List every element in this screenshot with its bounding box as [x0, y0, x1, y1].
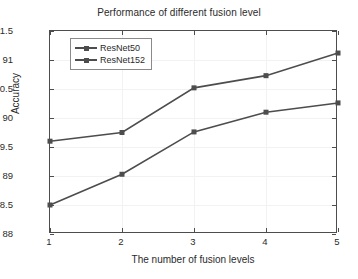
data-point-marker	[120, 172, 125, 177]
y-tick-label: 88.5	[0, 199, 13, 210]
data-point-marker	[48, 139, 53, 144]
series-line-resnet50	[50, 103, 338, 205]
y-tick-mark	[50, 234, 54, 235]
y-tick-label: 89	[0, 170, 13, 181]
data-point-marker	[192, 85, 197, 90]
legend-label: ResNet152	[97, 55, 145, 65]
x-tick-mark	[338, 31, 339, 35]
data-point-marker	[120, 130, 125, 135]
x-tick-label: 5	[317, 236, 357, 247]
x-tick-label: 1	[29, 236, 69, 247]
x-tick-label: 2	[101, 236, 141, 247]
data-point-marker	[264, 73, 269, 78]
data-point-marker	[192, 129, 197, 134]
y-tick-label: 90	[0, 112, 13, 123]
y-tick-mark	[332, 234, 336, 235]
legend-marker-icon	[75, 54, 97, 66]
chart-container: Performance of different fusion level Ac…	[0, 0, 358, 279]
y-tick-label: 91.5	[0, 25, 13, 36]
chart-legend: ResNet50ResNet152	[70, 38, 152, 70]
data-point-marker	[336, 51, 341, 56]
x-tick-label: 3	[173, 236, 213, 247]
y-tick-label: 88	[0, 228, 13, 239]
data-point-marker	[336, 100, 341, 105]
legend-item-resnet152[interactable]: ResNet152	[75, 54, 145, 66]
x-axis-label: The number of fusion levels	[49, 254, 337, 265]
y-tick-label: 91	[0, 54, 13, 65]
y-tick-label: 89.5	[0, 141, 13, 152]
chart-title: Performance of different fusion level	[0, 7, 358, 18]
x-tick-label: 4	[245, 236, 285, 247]
legend-label: ResNet50	[97, 43, 140, 53]
data-point-marker	[264, 110, 269, 115]
data-point-marker	[48, 203, 53, 208]
y-tick-label: 90.5	[0, 83, 13, 94]
legend-marker-icon	[75, 42, 97, 54]
x-tick-mark	[338, 228, 339, 232]
legend-item-resnet50[interactable]: ResNet50	[75, 42, 145, 54]
